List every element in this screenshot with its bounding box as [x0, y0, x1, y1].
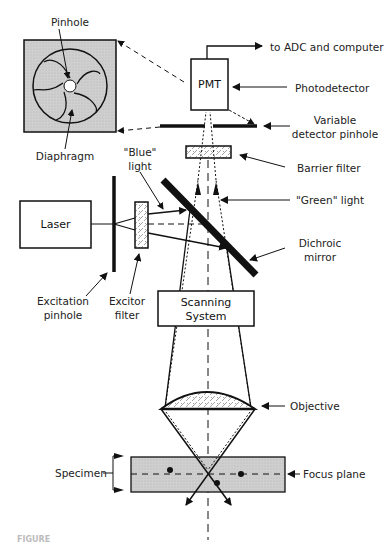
scanning-system-box: Scanning System: [158, 291, 254, 326]
label-objective: Objective: [290, 400, 340, 412]
label-excitation: Excitation: [37, 295, 89, 307]
dichroic-mirror: [163, 180, 256, 275]
laser-label: Laser: [41, 218, 71, 231]
scanning-label-1: Scanning: [181, 296, 232, 309]
figure-caption: FIGURE: [17, 535, 50, 544]
objective-lens: [161, 392, 255, 409]
label-focus-plane: Focus plane: [303, 468, 365, 480]
label-pinhole: Pinhole: [51, 16, 89, 28]
label-diaphragm: Diaphragm: [36, 150, 94, 162]
label-excitation-pinhole: pinhole: [44, 309, 83, 321]
pmt-box: PMT: [191, 59, 228, 110]
excitor-filter: [135, 202, 148, 248]
confocal-diagram: Pinhole Diaphragm PMT to ADC and compute…: [0, 0, 389, 544]
scanning-label-2: System: [185, 310, 226, 323]
label-variable: Variable: [314, 114, 357, 126]
label-light: light: [128, 160, 151, 172]
label-dichroic: Dichroic: [299, 237, 342, 249]
diaphragm-inset: [24, 40, 116, 132]
label-specimen: Specimen: [55, 467, 107, 479]
label-green-light: "Green" light: [296, 194, 364, 206]
label-photodetector: Photodetector: [295, 82, 370, 94]
laser-box: Laser: [20, 201, 91, 248]
label-filter: filter: [115, 309, 140, 321]
pmt-label: PMT: [198, 78, 221, 91]
barrier-filter: [186, 146, 231, 158]
label-to-adc: to ADC and computer: [270, 41, 384, 53]
label-detector-pinhole: detector pinhole: [292, 128, 378, 140]
label-mirror: mirror: [304, 251, 337, 263]
pinhole-aperture: [64, 80, 76, 92]
label-blue: "Blue": [124, 146, 157, 158]
label-excitor: Excitor: [109, 295, 146, 307]
label-barrier-filter: Barrier filter: [297, 162, 361, 174]
